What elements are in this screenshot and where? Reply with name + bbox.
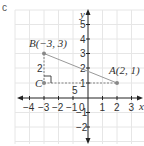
y-tick-label: −2 <box>76 122 88 133</box>
x-tick-label: 1 <box>100 102 106 113</box>
y-tick-labels: 5 4 3 2 1 −1 −2 <box>76 19 88 133</box>
point-a <box>115 81 119 85</box>
x-tick-label: 2 <box>114 102 120 113</box>
x-tick-label: −3 <box>38 102 50 113</box>
point-c-label: C <box>35 77 43 89</box>
point-c <box>42 81 46 85</box>
x-axis-left-arrow-icon <box>17 96 23 101</box>
y-tick-label: 4 <box>80 34 86 45</box>
point-b-label: B(−3, 3) <box>29 37 67 50</box>
x-tick-label: −2 <box>52 102 64 113</box>
x-tick-label: −4 <box>23 102 35 113</box>
x-axis <box>20 96 140 100</box>
x-axis-label: x <box>138 100 144 112</box>
part-label: c <box>2 2 7 13</box>
y-tick-label: 3 <box>80 48 86 59</box>
horizontal-leg-length: 5 <box>72 85 78 96</box>
coordinate-figure: c y x −4 −3 −2 −1 0 1 2 3 5 4 3 2 1 −1 −… <box>0 0 144 146</box>
y-tick-label: 5 <box>80 19 86 30</box>
vertical-leg-length: 2 <box>37 63 43 74</box>
x-tick-label: 3 <box>129 102 135 113</box>
point-a-label: A(2, 1) <box>108 64 140 77</box>
y-tick-label: −1 <box>76 107 88 118</box>
point-b <box>42 52 46 56</box>
